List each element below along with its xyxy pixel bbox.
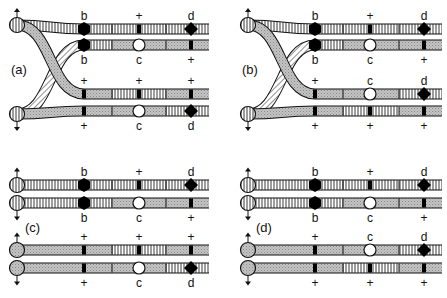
marker-bar-icon [368,25,372,34]
allele-label: + [80,230,87,244]
allele-label: c [136,53,142,67]
allele-label: + [135,230,142,244]
panel-label: (b) [242,62,258,77]
allele-label: + [80,74,87,88]
marker-bar-icon [313,264,317,273]
strand-row: +cd [80,104,209,133]
marker-bar-icon [82,107,86,116]
allele-label: + [311,230,318,244]
chromosome-crossover-figure: b+dbc+++++cd(a)b+dbc++cd+++(b)b+dbc+++++… [0,0,447,298]
allele-label: d [188,119,195,133]
centromere-circle [10,196,25,211]
allele-label: + [187,53,194,67]
arrow-up-icon [245,233,251,237]
centromere-circle [10,178,25,193]
marker-bar-icon [422,41,426,50]
arrow-down-icon [245,217,251,221]
strand-row: bc+ [78,196,209,225]
panel-d: b+dbc++cd+++(d) [241,165,443,290]
marker-bar-icon [137,246,141,255]
allele-label: + [187,230,194,244]
marker-bar-icon [137,25,141,34]
marker-circle-icon [133,39,145,51]
strand-row: b+d [78,9,209,36]
marker-circle-icon [364,88,376,100]
marker-bar-icon [82,90,86,99]
allele-label: b [81,211,88,225]
strand-row: +cd [311,74,442,101]
allele-label: d [188,9,195,23]
allele-label: b [81,165,88,179]
marker-bar-icon [189,246,193,255]
strand-row: +cd [311,230,442,257]
marker-bar-icon [189,41,193,50]
marker-circle-icon [364,197,376,209]
marker-circle-icon [133,262,145,274]
allele-label: c [136,276,142,290]
allele-label: d [421,74,428,88]
arrow-up-icon [14,8,20,12]
panel-label: (c) [25,220,40,235]
allele-label: + [80,276,87,290]
arrow-up-icon [14,233,20,237]
allele-label: + [311,74,318,88]
marker-circle-icon [364,244,376,256]
marker-bar-icon [422,107,426,116]
allele-label: d [421,9,428,23]
panel-b: b+dbc++cd+++(b) [241,8,443,133]
arrow-down-icon [14,282,20,286]
strand-row: bc+ [309,38,442,67]
marker-bar-icon [422,264,426,273]
allele-label: b [312,211,319,225]
allele-label: + [135,9,142,23]
marker-bar-icon [368,264,372,273]
strand-row: +++ [80,74,209,100]
strand-row: +++ [311,263,442,291]
strand-row: b+d [309,9,442,36]
allele-label: c [136,211,142,225]
centromere-circle [10,243,25,258]
marker-bar-icon [82,264,86,273]
allele-label: + [420,211,427,225]
arrow-up-icon [245,168,251,172]
strand-row: +cd [80,261,209,290]
allele-label: d [421,230,428,244]
panel-c: b+dbc+++++cd(c) [10,165,210,290]
allele-label: c [367,53,373,67]
allele-label: b [81,53,88,67]
marker-bar-icon [189,90,193,99]
allele-label: b [312,9,319,23]
allele-label: d [188,165,195,179]
allele-label: c [367,230,373,244]
allele-label: d [188,276,195,290]
strand-row: bc+ [78,38,209,67]
marker-bar-icon [368,181,372,190]
arrow-down-icon [245,127,251,131]
centromere-circle [241,107,256,122]
centromere-circle [10,18,25,33]
arrow-down-icon [245,282,251,286]
allele-label: b [312,53,319,67]
allele-label: + [366,276,373,290]
marker-bar-icon [313,246,317,255]
allele-label: + [135,74,142,88]
marker-bar-icon [368,107,372,116]
panel-a: b+dbc+++++cd(a) [10,8,210,133]
marker-circle-icon [364,39,376,51]
strand-row: +++ [311,106,442,134]
centromere-circle [241,261,256,276]
allele-label: b [81,9,88,23]
allele-label: + [187,74,194,88]
allele-label: c [136,119,142,133]
marker-bar-icon [313,107,317,116]
allele-label: + [420,276,427,290]
allele-label: + [135,165,142,179]
marker-bar-icon [82,246,86,255]
strand-row: b+d [309,165,442,192]
allele-label: + [80,119,87,133]
allele-label: c [367,74,373,88]
strand-row: b+d [78,165,209,192]
allele-label: + [420,119,427,133]
allele-label: + [311,119,318,133]
allele-label: + [187,211,194,225]
